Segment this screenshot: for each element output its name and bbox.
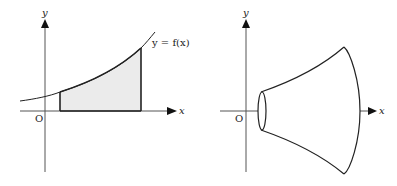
origin-label: O — [35, 113, 43, 124]
left-figure: y x O y = f(x) — [20, 7, 190, 172]
x-axis-arrow-icon — [167, 107, 177, 115]
right-figure: y x O — [220, 7, 385, 174]
solid-left-face — [258, 92, 266, 130]
solid-right-edge — [344, 47, 360, 174]
y-axis-arrow-icon — [242, 19, 250, 28]
y-axis-arrow-icon — [41, 19, 49, 28]
y-axis-label: y — [41, 7, 48, 18]
solid-bottom-profile — [261, 130, 344, 174]
x-axis-label: x — [379, 105, 385, 116]
diagram-canvas: y x O y = f(x) y x O — [0, 0, 397, 186]
x-axis-label: x — [179, 105, 185, 116]
solid-top-profile — [261, 47, 344, 92]
origin-label: O — [235, 113, 243, 124]
curve-label: y = f(x) — [151, 37, 190, 48]
y-axis-label: y — [242, 7, 249, 18]
x-axis-arrow-icon — [368, 107, 377, 115]
